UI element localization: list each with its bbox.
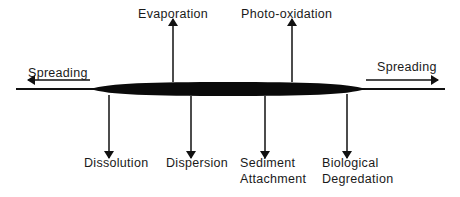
evaporation-label: Evaporation (138, 7, 208, 22)
photo-oxidation-label: Photo-oxidation (241, 7, 332, 22)
biological-degredation-line1: Biological (322, 156, 379, 171)
spreading-left-label: Spreading (28, 66, 88, 81)
diagram-canvas (0, 0, 460, 197)
biological-degredation-line2: Degredation (322, 172, 393, 187)
spreading-right-label: Spreading (377, 60, 437, 75)
sediment-attachment-line1: Sediment (240, 156, 295, 171)
dissolution-label: Dissolution (84, 156, 148, 171)
dispersion-label: Dispersion (166, 156, 228, 171)
oil-slick-shape (90, 82, 366, 96)
sediment-attachment-line2: Attachment (240, 172, 306, 187)
